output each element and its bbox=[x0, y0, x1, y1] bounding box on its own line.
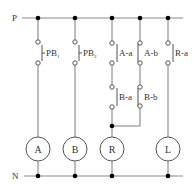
contact-terminal bbox=[138, 104, 142, 108]
contact-terminal bbox=[110, 105, 114, 109]
aa-label: A-a bbox=[119, 48, 133, 58]
junction-dot bbox=[36, 16, 41, 21]
junction-dot bbox=[73, 16, 78, 21]
load-l-label: L bbox=[165, 144, 171, 155]
contact-terminal bbox=[73, 40, 77, 44]
bus-label-p: P bbox=[12, 13, 17, 23]
contact-terminal bbox=[110, 61, 114, 65]
load-r-label: R bbox=[109, 144, 116, 155]
bus-label-n: N bbox=[12, 171, 19, 181]
contact-terminal bbox=[36, 40, 40, 44]
pb2-label: PB2 bbox=[83, 48, 97, 59]
ba-label: B-a bbox=[119, 92, 132, 102]
junction-dot bbox=[73, 174, 78, 179]
load-a-label: A bbox=[34, 144, 42, 155]
bb-label: B-b bbox=[144, 92, 158, 102]
ra-label: R-a bbox=[175, 48, 188, 58]
junction-dot bbox=[166, 16, 171, 21]
contact-terminal bbox=[73, 61, 77, 65]
contact-terminal bbox=[110, 85, 114, 89]
branch-ab-bb bbox=[112, 18, 142, 126]
junction-dot bbox=[36, 174, 41, 179]
contact-terminal bbox=[36, 61, 40, 65]
contact-terminal bbox=[166, 41, 170, 45]
junction-dot bbox=[138, 16, 143, 21]
junction-dot bbox=[166, 174, 171, 179]
relay-circuit-diagram: P N PB1 A PB2 B bbox=[0, 0, 194, 193]
contact-terminal bbox=[138, 61, 142, 65]
junction-dot bbox=[110, 124, 115, 129]
junction-dot bbox=[110, 174, 115, 179]
pb1-label: PB1 bbox=[46, 48, 60, 59]
contact-terminal bbox=[166, 61, 170, 65]
load-b-label: B bbox=[72, 144, 79, 155]
junction-dot bbox=[110, 16, 115, 21]
ab-label: A-b bbox=[144, 48, 158, 58]
contact-terminal bbox=[110, 41, 114, 45]
